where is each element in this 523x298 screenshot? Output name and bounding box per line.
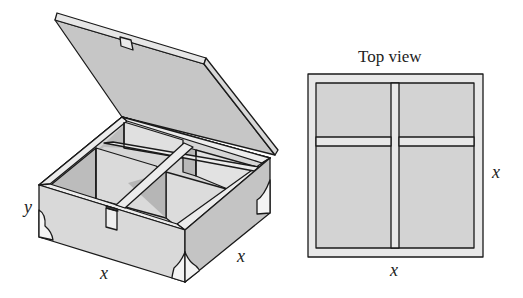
top-view <box>308 74 483 257</box>
label-side-depth-x: x <box>236 246 245 266</box>
front-latch-icon <box>106 208 117 230</box>
top-view-title: Top view <box>358 47 422 66</box>
top-view-label-bottom-x: x <box>389 260 398 280</box>
diagram-canvas: y x x Top view x x <box>0 0 523 298</box>
top-view-label-side-x: x <box>491 162 500 182</box>
label-front-width-x: x <box>99 263 108 283</box>
label-height-y: y <box>22 197 32 217</box>
